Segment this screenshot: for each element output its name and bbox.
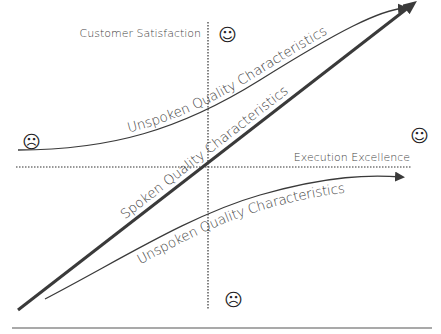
unspoken-lower-curve xyxy=(45,176,402,299)
kano-diagram: Unspoken Quality Characteristics Spoken … xyxy=(0,0,441,334)
unspoken-lower-label: Unspoken Quality Characteristics xyxy=(134,180,346,267)
customer-satisfaction-label: Customer Satisfaction xyxy=(80,27,201,40)
unspoken-upper-curve xyxy=(18,8,405,150)
frown-bottom-icon: ☹ xyxy=(224,289,243,310)
smiley-top-icon: ☺ xyxy=(218,24,237,45)
smiley-right-icon: ☺ xyxy=(410,125,429,146)
frown-left-icon: ☹ xyxy=(22,131,41,152)
execution-excellence-label: Execution Excellence xyxy=(294,151,410,164)
diagram-canvas: Unspoken Quality Characteristics Spoken … xyxy=(0,0,441,334)
